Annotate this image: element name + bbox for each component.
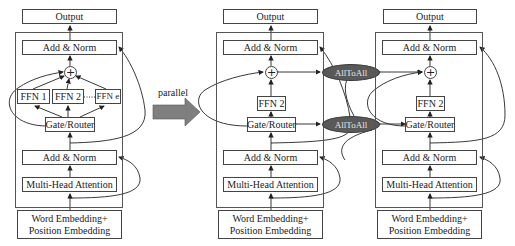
output-box: Output xyxy=(383,9,477,24)
multi-head-attention-box: Multi-Head Attention xyxy=(382,177,477,192)
embedding-line-2: Position Embedding xyxy=(29,225,110,237)
gate-router-box: Gate/Router xyxy=(405,117,455,132)
embedding-box: Word Embedding+ Position Embedding xyxy=(377,210,482,239)
expert-ffn-1: FFN 1 xyxy=(17,89,50,104)
expert-ffn-2: FFN 2 xyxy=(257,96,286,111)
embedding-box: Word Embedding+ Position Embedding xyxy=(218,210,323,239)
embedding-line-1: Word Embedding+ xyxy=(232,213,308,225)
expert-ffn-e: FFN e xyxy=(95,89,121,104)
parallel-arrow xyxy=(153,98,200,126)
parallel-label: parallel xyxy=(158,87,188,98)
sum-icon: + xyxy=(64,66,77,79)
output-box: Output xyxy=(22,9,117,24)
sum-icon: + xyxy=(265,66,278,79)
alltoall-bottom-node: AllToAll xyxy=(322,116,380,133)
add-norm-bottom-box: Add & Norm xyxy=(223,150,318,165)
add-norm-top-box: Add & Norm xyxy=(382,40,477,55)
sum-icon: + xyxy=(424,66,437,79)
multi-head-attention-box: Multi-Head Attention xyxy=(22,177,117,192)
output-box: Output xyxy=(223,9,318,24)
embedding-line-2: Position Embedding xyxy=(230,225,311,237)
expert-ffn-2: FFN 2 xyxy=(52,89,84,104)
gate-router-box: Gate/Router xyxy=(247,117,296,132)
multi-head-attention-box: Multi-Head Attention xyxy=(223,177,318,192)
expert-ffn-2: FFN 2 xyxy=(416,96,445,111)
gate-router-box: Gate/Router xyxy=(45,117,95,132)
alltoall-top-node: AllToAll xyxy=(322,64,380,81)
embedding-line-1: Word Embedding+ xyxy=(31,213,107,225)
add-norm-top-box: Add & Norm xyxy=(22,40,117,55)
add-norm-bottom-box: Add & Norm xyxy=(22,150,117,165)
embedding-line-1: Word Embedding+ xyxy=(391,213,467,225)
add-norm-bottom-box: Add & Norm xyxy=(382,150,477,165)
embedding-box: Word Embedding+ Position Embedding xyxy=(17,210,122,239)
add-norm-top-box: Add & Norm xyxy=(223,40,318,55)
embedding-line-2: Position Embedding xyxy=(389,225,470,237)
